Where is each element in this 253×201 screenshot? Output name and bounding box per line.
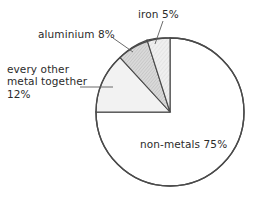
pie-label-every-other-metal-line3: 12% bbox=[7, 88, 31, 100]
leader-line-aluminium bbox=[113, 38, 133, 52]
pie-label-every-other-metal: every other metal together 12% bbox=[7, 63, 99, 100]
pie-chart-figure: iron 5% aluminium 8% every other metal t… bbox=[0, 0, 253, 201]
pie-label-non-metals: non-metals 75% bbox=[140, 138, 227, 150]
pie-label-every-other-metal-line2: metal together bbox=[7, 75, 87, 87]
pie-label-iron: iron 5% bbox=[138, 8, 179, 20]
pie-label-aluminium: aluminium 8% bbox=[38, 28, 115, 40]
pie-label-every-other-metal-line1: every other bbox=[7, 63, 69, 75]
